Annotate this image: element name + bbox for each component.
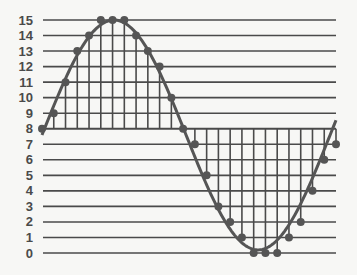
y-tick-label: 0	[26, 246, 33, 261]
sample-point	[250, 249, 258, 257]
sample-point	[38, 125, 46, 133]
sample-point	[273, 249, 281, 257]
y-tick-label: 7	[26, 137, 33, 152]
sample-point	[226, 218, 234, 226]
y-tick-label: 14	[19, 28, 34, 43]
sample-point	[191, 140, 199, 148]
sample-point	[238, 233, 246, 241]
sine-curve	[42, 20, 336, 250]
sample-point	[132, 32, 140, 40]
sample-point	[320, 156, 328, 164]
y-tick-label: 5	[26, 168, 33, 183]
y-tick-label: 4	[26, 183, 34, 198]
sample-point	[109, 16, 117, 24]
sample-points	[38, 16, 340, 257]
y-tick-label: 13	[19, 44, 33, 59]
sample-point	[285, 233, 293, 241]
sample-point	[214, 202, 222, 210]
sampled-sine-chart: 0123456789101112131415	[0, 0, 357, 275]
y-tick-label: 9	[26, 106, 33, 121]
y-tick-label: 1	[26, 230, 33, 245]
y-tick-label: 3	[26, 199, 33, 214]
sample-point	[308, 187, 316, 195]
y-tick-label: 12	[19, 59, 33, 74]
sample-point	[179, 125, 187, 133]
y-tick-label: 6	[26, 152, 33, 167]
sample-point	[332, 140, 340, 148]
sample-point	[73, 47, 81, 55]
y-axis-ticks: 0123456789101112131415	[19, 13, 34, 261]
sample-point	[120, 16, 128, 24]
sample-point	[62, 78, 70, 86]
sample-point	[50, 109, 58, 117]
sample-point	[156, 63, 164, 71]
sample-point	[203, 171, 211, 179]
y-tick-label: 15	[19, 13, 33, 28]
sample-point	[97, 16, 105, 24]
sample-point	[297, 218, 305, 226]
sample-point	[261, 249, 269, 257]
y-tick-label: 2	[26, 214, 33, 229]
y-tick-label: 8	[26, 121, 33, 136]
sample-point	[85, 32, 93, 40]
y-tick-label: 11	[19, 75, 33, 90]
y-tick-label: 10	[19, 90, 33, 105]
sample-point	[144, 47, 152, 55]
sample-point	[167, 94, 175, 102]
